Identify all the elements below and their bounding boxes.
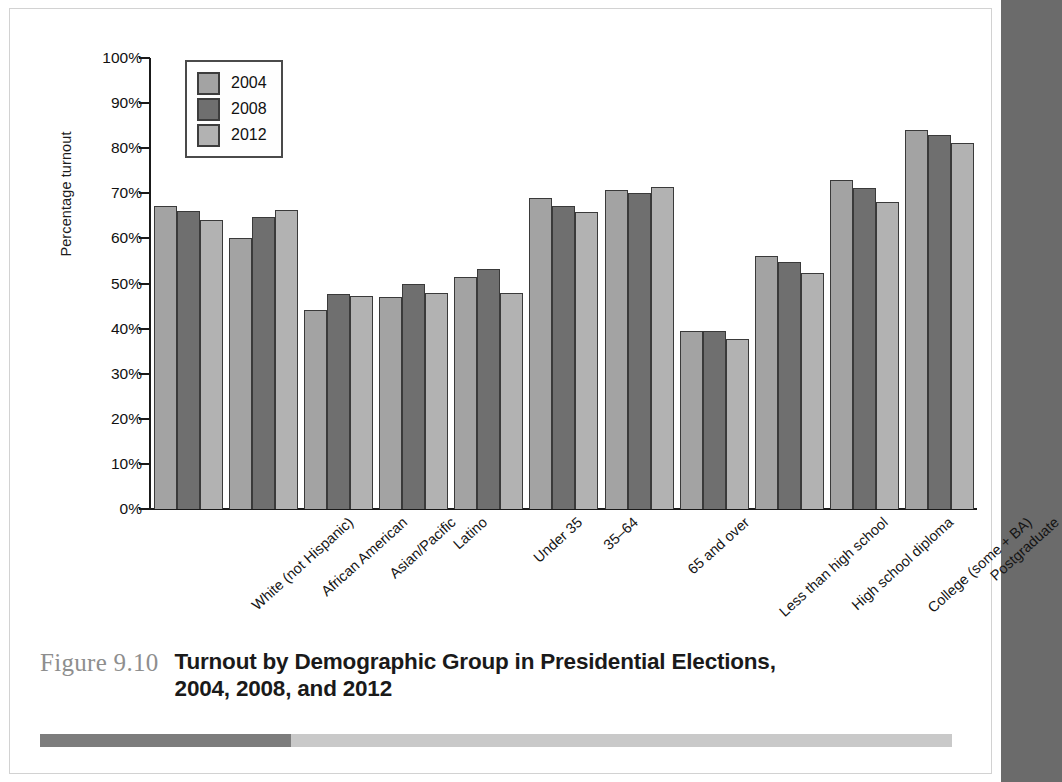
bar-group (602, 58, 677, 509)
bar (327, 294, 350, 509)
legend-swatch (197, 98, 220, 121)
bar (830, 180, 853, 509)
bar-group (451, 58, 526, 509)
y-tick-label: 30% (56, 365, 142, 383)
bar (905, 130, 928, 509)
bar (229, 238, 252, 509)
bar (876, 202, 899, 509)
y-tick-mark (139, 102, 150, 104)
y-tick-mark (139, 508, 150, 510)
legend-swatch (197, 72, 220, 95)
bar (575, 212, 598, 509)
bar-group (677, 58, 752, 509)
bar (425, 293, 448, 509)
bar (605, 190, 628, 509)
bar (928, 135, 951, 509)
x-axis-category-labels: White (not Hispanic)African AmericanAsia… (151, 514, 977, 634)
figure-title-line-2: 2004, 2008, and 2012 (175, 676, 392, 701)
bar (651, 187, 674, 509)
y-tick-label: 20% (56, 410, 142, 428)
bar (402, 284, 425, 509)
bar (801, 273, 824, 509)
bar (177, 211, 200, 509)
chart-legend: 200420082012 (185, 60, 283, 158)
bar (951, 143, 974, 509)
y-tick-mark (139, 147, 150, 149)
y-tick-label: 100% (56, 49, 142, 67)
plot-wrapper: Percentage turnout 100%90%80%70%60%50%40… (20, 16, 982, 516)
chart-figure: Percentage turnout 100%90%80%70%60%50%40… (20, 16, 982, 628)
y-tick-label: 90% (56, 94, 142, 112)
y-tick-label: 70% (56, 184, 142, 202)
bar (275, 210, 298, 509)
legend-swatch (197, 124, 220, 147)
bar-group (526, 58, 601, 509)
bar (252, 217, 275, 509)
bar (529, 198, 552, 509)
bar (200, 220, 223, 509)
bar (680, 331, 703, 509)
legend-label: 2004 (231, 74, 267, 92)
x-category-label: Less than high school (776, 514, 891, 620)
legend-item: 2012 (197, 122, 267, 148)
x-category-label: Latino (450, 514, 490, 552)
bar (154, 206, 177, 509)
figure-title: Turnout by Demographic Group in Presiden… (175, 648, 776, 703)
x-category-label: Under 35 (530, 514, 585, 566)
y-tick-mark (139, 418, 150, 420)
x-category-label: White (not Hispanic) (248, 514, 356, 613)
bar (350, 296, 373, 509)
bar (500, 293, 523, 509)
legend-label: 2008 (231, 100, 267, 118)
bar (778, 262, 801, 509)
decorative-rule (40, 734, 952, 747)
bar-group (301, 58, 376, 509)
figure-caption: Figure 9.10 Turnout by Demographic Group… (40, 648, 960, 703)
legend-item: 2004 (197, 70, 267, 96)
bar (703, 331, 726, 509)
figure-number: Figure 9.10 (40, 648, 175, 679)
y-tick-label: 0% (56, 500, 142, 518)
bar (379, 297, 402, 509)
bar (477, 269, 500, 509)
y-tick-mark (139, 237, 150, 239)
y-tick-label: 60% (56, 229, 142, 247)
y-tick-mark (139, 463, 150, 465)
x-category-label: 35–64 (600, 514, 641, 553)
bar-group (902, 58, 977, 509)
bar (755, 256, 778, 509)
figure-title-line-1: Turnout by Demographic Group in Presiden… (175, 649, 776, 674)
x-category-label: 65 and over (685, 514, 753, 577)
bar (726, 339, 749, 509)
legend-item: 2008 (197, 96, 267, 122)
y-tick-mark (139, 328, 150, 330)
decorative-rule-accent (40, 734, 291, 747)
bar-group (827, 58, 902, 509)
y-tick-label: 40% (56, 320, 142, 338)
bar-group (376, 58, 451, 509)
y-tick-label: 10% (56, 455, 142, 473)
bar (304, 310, 327, 509)
y-tick-mark (139, 57, 150, 59)
bar (552, 206, 575, 509)
bar (628, 193, 651, 509)
y-tick-mark (139, 283, 150, 285)
y-tick-label: 50% (56, 275, 142, 293)
legend-label: 2012 (231, 126, 267, 144)
y-tick-mark (139, 192, 150, 194)
bar (853, 188, 876, 509)
y-axis-tick-labels: 100%90%80%70%60%50%40%30%20%10%0% (56, 38, 142, 498)
bar (454, 277, 477, 509)
bar-group (752, 58, 827, 509)
y-tick-mark (139, 373, 150, 375)
y-tick-label: 80% (56, 139, 142, 157)
